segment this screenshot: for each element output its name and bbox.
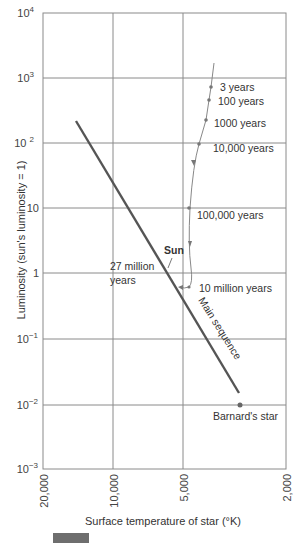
label-27-million-years: years bbox=[110, 274, 136, 286]
x-axis-label: Surface temperature of star (°K) bbox=[85, 515, 241, 527]
y-tick-10e2: 10 bbox=[14, 137, 29, 149]
main-sequence-label: Main sequence bbox=[196, 295, 244, 362]
svg-text:103: 103 bbox=[17, 70, 34, 84]
y-tick-10e-1: 10 bbox=[17, 333, 29, 345]
svg-text:10 2: 10 2 bbox=[14, 135, 34, 149]
label-1000-years: 1000 years bbox=[214, 117, 266, 129]
label-100-years: 100 years bbox=[218, 95, 264, 107]
label-barnards-star: Barnard's star bbox=[213, 410, 279, 422]
label-27-million: 27 million bbox=[110, 260, 155, 272]
x-tick-10000: 10,000 bbox=[108, 474, 120, 508]
y-tick-10: 10 bbox=[27, 202, 39, 214]
svg-text:104: 104 bbox=[17, 5, 34, 19]
svg-text:10−3: 10−3 bbox=[17, 461, 39, 475]
barnards-star-marker bbox=[238, 403, 243, 408]
label-sun: Sun bbox=[164, 244, 184, 256]
arrow-icon bbox=[178, 285, 183, 290]
svg-text:10−2: 10−2 bbox=[17, 397, 39, 411]
hr-diagram: 104 103 10 2 10 1 10−1 10−2 10−3 20,000 … bbox=[0, 0, 303, 543]
label-10000-years: 10,000 years bbox=[213, 142, 274, 154]
y-tick-10e3: 10 bbox=[17, 72, 29, 84]
evolutionary-track bbox=[180, 63, 214, 288]
sun-pointer bbox=[168, 258, 172, 268]
label-3-years: 3 years bbox=[220, 81, 254, 93]
gray-block bbox=[53, 533, 89, 543]
label-10-million-years: 10 million years bbox=[199, 282, 272, 294]
x-tick-2000: 2,000 bbox=[281, 474, 293, 502]
y-tick-10e-3: 10 bbox=[17, 463, 29, 475]
main-sequence-line bbox=[76, 121, 239, 393]
svg-text:10−1: 10−1 bbox=[17, 331, 39, 345]
label-100000-years: 100,000 years bbox=[197, 209, 264, 221]
x-tick-labels: 20,000 10,000 5,000 2,000 bbox=[38, 474, 293, 508]
track-markers bbox=[187, 85, 213, 288]
y-tick-1: 1 bbox=[33, 267, 39, 279]
y-axis-label: Luminosity (sun's luminosity = 1) bbox=[15, 161, 27, 320]
y-tick-10e-2: 10 bbox=[17, 399, 29, 411]
y-tick-10e4: 10 bbox=[17, 7, 29, 19]
x-tick-20000: 20,000 bbox=[38, 474, 50, 508]
arrow-icon bbox=[188, 241, 192, 247]
x-tick-5000: 5,000 bbox=[178, 474, 190, 502]
